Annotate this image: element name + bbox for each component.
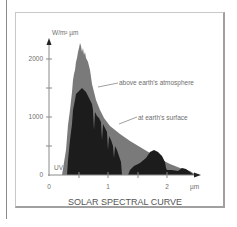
x-axis-arrow-icon xyxy=(194,173,201,178)
y-axis-unit-label: W/m² µm xyxy=(52,29,79,37)
x-tick-label-0: 0 xyxy=(47,183,51,190)
annotation-earth-surface: at earth's surface xyxy=(138,114,188,121)
chart-title: SOLAR SPECTRAL CURVE xyxy=(68,197,182,207)
y-axis-arrow-icon xyxy=(47,38,52,45)
x-tick-label-2: 2 xyxy=(165,183,169,190)
leader-line-surface xyxy=(119,117,137,124)
x-axis-unit-label: µm xyxy=(190,183,199,191)
leader-line-above xyxy=(98,83,118,87)
y-tick-label-1000: 1000 xyxy=(29,113,44,120)
annotation-above-atmosphere: above earth's atmosphere xyxy=(119,79,194,87)
uv-label: UV xyxy=(54,164,64,171)
y-tick-label-2000: 2000 xyxy=(29,55,44,62)
x-tick-label-1: 1 xyxy=(106,183,110,190)
solar-spectral-chart: W/m² µm 2000 1000 0 0 1 2 µm UV above ea… xyxy=(0,0,237,227)
y-tick-label-0: 0 xyxy=(39,171,43,178)
